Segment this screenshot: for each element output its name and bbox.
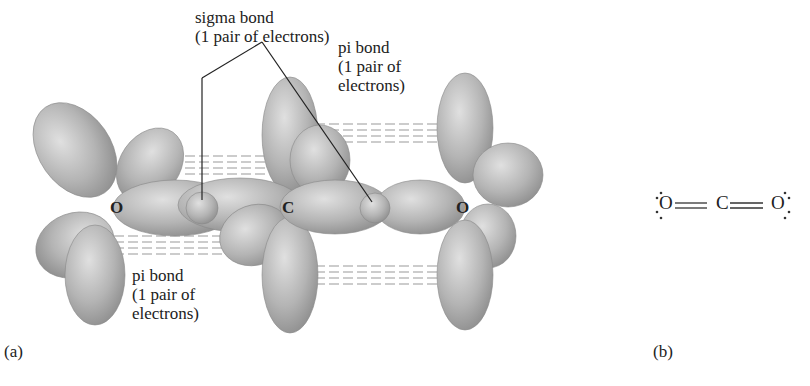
pi-bond-bottom-label: pi bond (1 pair of electrons): [132, 266, 199, 323]
pi-overlap-top-left: [185, 156, 268, 174]
atom-oxygen-right: O: [456, 198, 469, 218]
panel-a-label: (a): [4, 342, 23, 361]
atom-carbon: C: [282, 198, 294, 218]
panel-b-label: (b): [653, 342, 673, 361]
pi-bond-top-label: pi bond (1 pair of electrons): [338, 38, 405, 95]
sigma-bond-label: sigma bond (1 pair of electrons): [195, 8, 330, 46]
lewis-bonds-and-lone-pairs: [655, 190, 805, 220]
lewis-structure: O C O: [655, 190, 805, 220]
atom-oxygen-left: O: [110, 198, 123, 218]
